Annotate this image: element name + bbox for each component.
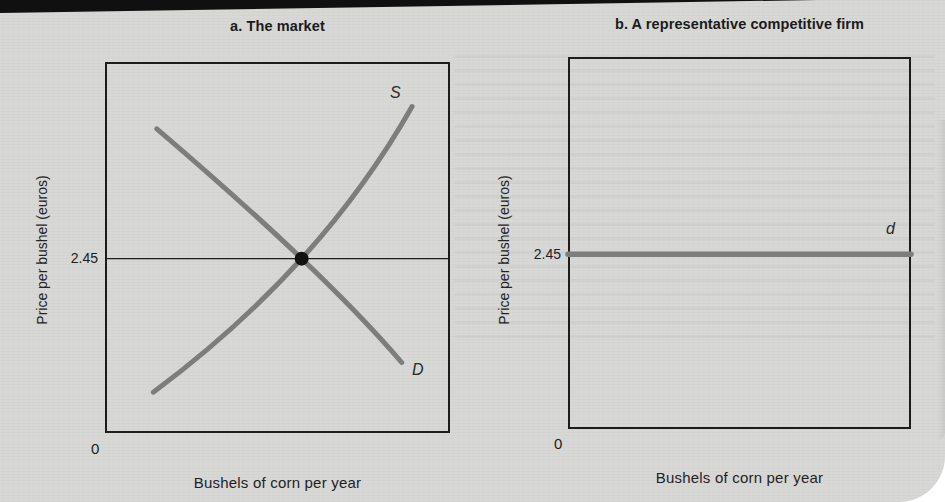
panel-b-price-tick: 2.45 — [517, 246, 561, 262]
demand-curve — [157, 129, 402, 363]
panel-a-y-axis-label: Price per bushel (euros) — [34, 175, 50, 324]
panel-a-x-axis-label: Bushels of corn per year — [105, 474, 450, 491]
page-edge-shade — [937, 120, 945, 440]
panel-b-x-axis-label: Bushels of corn per year — [568, 469, 911, 486]
panel-a-origin-label: 0 — [91, 440, 99, 457]
market-supply-demand-chart — [105, 62, 450, 433]
equilibrium-point — [295, 252, 309, 266]
panel-b-y-axis-label: Price per bushel (euros) — [496, 175, 512, 324]
plot-border — [569, 58, 910, 428]
panel-b-origin-label: 0 — [554, 435, 562, 452]
firm-demand-chart — [568, 57, 911, 429]
demand-curve-label: D — [412, 361, 424, 379]
panel-a-price-tick: 2.45 — [54, 250, 98, 266]
panel-b-title: b. A representative competitive firm — [568, 16, 911, 32]
supply-curve — [153, 107, 412, 393]
panel-a-title: a. The market — [105, 18, 450, 34]
supply-curve-label: S — [390, 84, 401, 102]
scanned-textbook-figure: a. The market Price per bushel (euros) 2… — [0, 0, 945, 502]
plot-border — [106, 63, 449, 432]
firm-demand-curve-label: d — [886, 220, 895, 238]
